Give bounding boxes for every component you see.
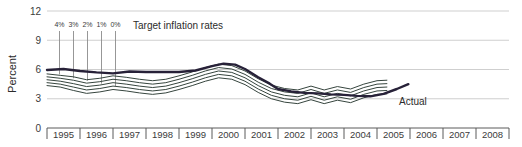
annotation-actual: Actual — [399, 96, 427, 107]
year-label-1999: 1999 — [185, 129, 206, 140]
annotation-target-inflation-rates: Target inflation rates — [133, 20, 223, 31]
year-label-2007: 2007 — [449, 129, 470, 140]
year-label-2008: 2008 — [482, 129, 503, 140]
y-tick-6: 6 — [35, 64, 41, 75]
year-label-2003: 2003 — [317, 129, 338, 140]
year-label-2000: 2000 — [218, 129, 239, 140]
year-label-1997: 1997 — [119, 129, 140, 140]
year-label-1995: 1995 — [53, 129, 74, 140]
year-label-2001: 2001 — [251, 129, 272, 140]
target-label-2pct: 2% — [82, 21, 92, 28]
year-label-2004: 2004 — [350, 129, 371, 140]
y-axis-title: Percent — [6, 55, 18, 93]
target-label-3pct: 3% — [68, 21, 78, 28]
year-label-2002: 2002 — [284, 129, 305, 140]
target-label-4pct: 4% — [54, 21, 64, 28]
year-label-2005: 2005 — [383, 129, 404, 140]
y-tick-0: 0 — [35, 123, 41, 134]
y-tick-3: 3 — [35, 93, 41, 104]
y-tick-9: 9 — [35, 35, 41, 46]
target-label-0pct: 0% — [110, 21, 120, 28]
inflation-fan-chart: 036912 Percent 4%3%2%1%0% 19951996199719… — [0, 0, 522, 147]
target-label-1pct: 1% — [96, 21, 106, 28]
year-label-1998: 1998 — [152, 129, 173, 140]
target-rate-labels: 4%3%2%1%0% — [54, 21, 120, 28]
year-label-1996: 1996 — [86, 129, 107, 140]
chart-canvas: 036912 Percent 4%3%2%1%0% 19951996199719… — [0, 0, 522, 147]
year-label-2006: 2006 — [416, 129, 437, 140]
y-tick-12: 12 — [30, 6, 42, 17]
